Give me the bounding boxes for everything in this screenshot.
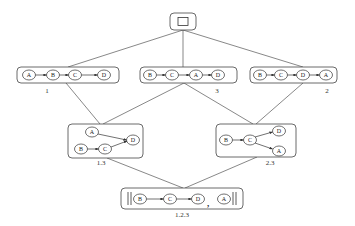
svg-text:A: A <box>27 72 32 78</box>
order-box-3: B C A D 3 <box>140 67 237 95</box>
svg-text:A: A <box>90 129 95 135</box>
lattice-diagram: A B C D 1 B C A D 3 B C D A 2 A B C D <box>0 0 355 226</box>
svg-text:D: D <box>196 196 201 202</box>
box-label: 2 <box>325 87 329 95</box>
svg-text:D: D <box>277 128 282 134</box>
separator-comma: , <box>207 198 209 208</box>
order-box-1: A B C D 1 <box>17 67 119 95</box>
svg-text:A: A <box>222 196 227 202</box>
svg-text:B: B <box>224 137 228 143</box>
svg-text:B: B <box>148 72 152 78</box>
box-label: 2.3 <box>266 159 275 167</box>
svg-text:A: A <box>277 148 282 154</box>
order-box-2-3: B C D A 2.3 <box>216 124 296 167</box>
svg-text:B: B <box>79 146 83 152</box>
svg-text:C: C <box>248 137 252 143</box>
svg-text:C: C <box>170 72 174 78</box>
svg-text:C: C <box>73 72 77 78</box>
top-node <box>170 13 196 30</box>
svg-text:A: A <box>324 72 329 78</box>
svg-text:C: C <box>103 146 107 152</box>
svg-text:C: C <box>279 72 283 78</box>
order-box-2: B C D A 2 <box>250 67 337 95</box>
svg-text:D: D <box>216 72 221 78</box>
box-label: 1.2.3 <box>175 211 190 219</box>
order-box-1-3: A B C D 1.3 <box>68 124 143 167</box>
svg-text:C: C <box>168 196 172 202</box>
box-label: 1.3 <box>97 159 106 167</box>
svg-text:D: D <box>131 137 136 143</box>
svg-text:D: D <box>301 72 306 78</box>
box-label: 3 <box>215 87 219 95</box>
empty-square-icon <box>178 18 188 26</box>
svg-text:A: A <box>194 72 199 78</box>
svg-text:B: B <box>138 196 142 202</box>
order-box-1-2-3: B C D , A 1.2.3 <box>121 188 243 219</box>
svg-text:B: B <box>51 72 55 78</box>
box-label: 1 <box>45 87 49 95</box>
svg-text:D: D <box>102 72 107 78</box>
svg-text:B: B <box>258 72 262 78</box>
